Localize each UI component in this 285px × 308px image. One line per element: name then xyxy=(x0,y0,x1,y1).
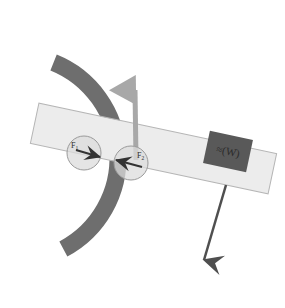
physics-diagram-canvas: ≈(W) F1F2 xyxy=(0,0,285,308)
left-contact-force-group: F1 xyxy=(67,136,101,170)
diagram-svg: ≈(W) F1F2 xyxy=(0,0,285,308)
weight-force-arrow-group xyxy=(204,185,226,260)
weight-force-arrow xyxy=(204,185,226,260)
right-contact-force-circle xyxy=(114,146,148,180)
right-contact-force-group: F2 xyxy=(114,146,148,180)
